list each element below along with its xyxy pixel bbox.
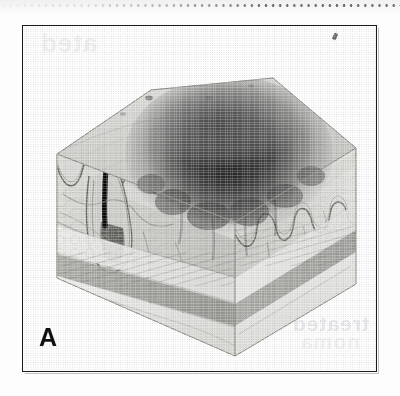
skin-pore — [180, 82, 187, 86]
panel-label-a: A — [39, 325, 57, 350]
scanner-dot-row-artifact — [0, 3, 400, 8]
skin-block-illustration — [23, 26, 376, 371]
skin-pore — [145, 96, 153, 101]
skin-pore — [120, 112, 126, 116]
scanned-figure-page: ated treated noma — [0, 0, 400, 396]
